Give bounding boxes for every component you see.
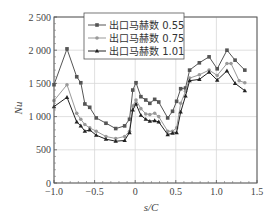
x-tick-label: 1.0	[210, 186, 223, 197]
x-axis-label: s/C	[144, 201, 159, 213]
nu-line-chart: 05001 0001 5002 0002 500 −1.0−0.500.51.0…	[0, 0, 273, 222]
x-tick-label: −1.0	[45, 186, 63, 197]
legend-label: 出口马赫数 0.75	[109, 32, 184, 44]
legend-label: 出口马赫数 1.01	[109, 45, 184, 57]
y-tick-label: 1 000	[29, 111, 52, 122]
series-2	[52, 62, 246, 141]
y-axis-label: Nu	[12, 101, 24, 115]
data-series	[52, 47, 247, 143]
series-3	[52, 68, 247, 142]
x-tick-label: 1.5	[251, 186, 264, 197]
y-tick-label: 1 500	[29, 78, 52, 89]
x-tick-label: −0.5	[86, 186, 104, 197]
x-tick-label: 0	[133, 186, 138, 197]
legend-label: 出口马赫数 0.55	[109, 19, 184, 31]
y-tick-label: 500	[36, 144, 51, 155]
x-tick-label: 0.5	[170, 186, 183, 197]
y-tick-label: 2 500	[29, 12, 52, 23]
legend: 出口马赫数 0.55出口马赫数 0.75出口马赫数 1.01	[84, 13, 184, 59]
y-tick-label: 2 000	[29, 45, 52, 56]
